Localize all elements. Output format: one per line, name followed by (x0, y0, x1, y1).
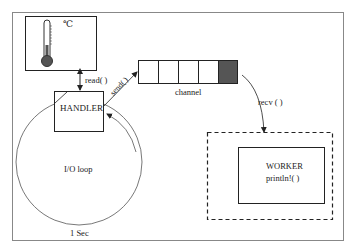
channel-label: channel (175, 88, 201, 97)
celsius-label: ℃ (63, 20, 73, 29)
worker-call: println!( ) (266, 174, 299, 183)
diagram-canvas (0, 0, 354, 252)
handler-label: HANDLER (60, 104, 103, 113)
channel-queue (139, 61, 238, 84)
period-label: 1 Sec (70, 229, 89, 238)
read-label: read( ) (85, 76, 107, 85)
sensor-box (26, 17, 97, 71)
worker-title: WORKER (266, 162, 303, 171)
io-loop-label: I/O loop (64, 165, 93, 174)
loop-return-edge (107, 114, 136, 152)
recv-label: recv ( ) (258, 98, 283, 107)
